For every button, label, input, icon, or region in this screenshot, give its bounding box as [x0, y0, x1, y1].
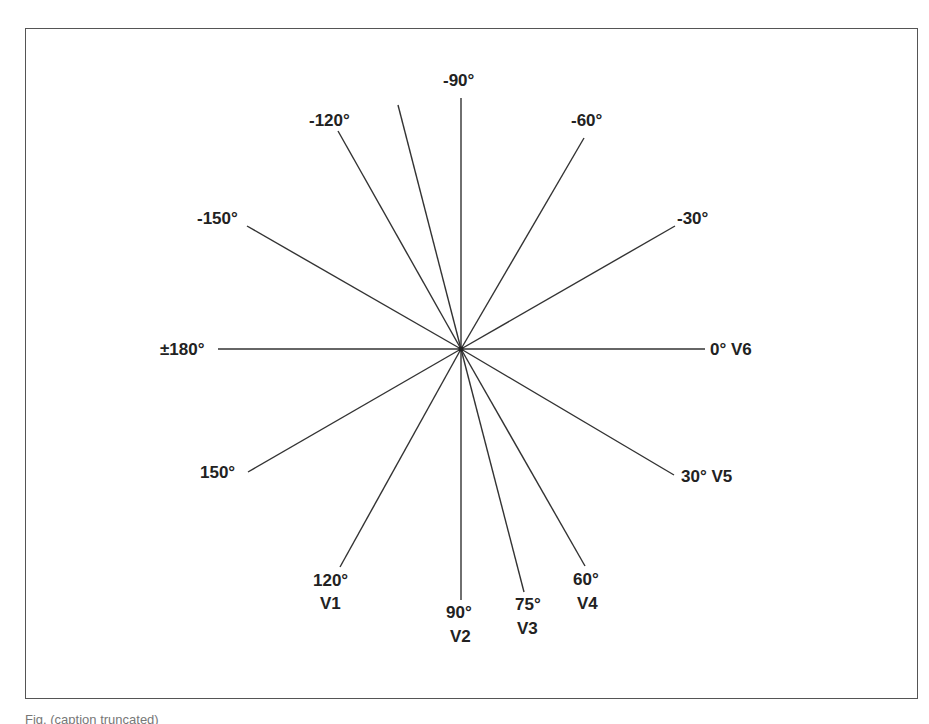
axis-30	[461, 349, 674, 475]
axis-60	[461, 349, 585, 566]
label-180: ±180°	[160, 340, 205, 359]
label-minus-90: -90°	[443, 71, 475, 90]
label-minus-30: -30°	[677, 209, 709, 228]
axis-minus-30	[461, 226, 675, 349]
label-120: 120°	[313, 571, 348, 590]
label-90: 90°	[446, 603, 472, 622]
label-minus-150: -150°	[197, 209, 238, 228]
label-v2: V2	[450, 627, 471, 646]
label-0-v6: 0° V6	[710, 340, 752, 359]
label-150: 150°	[200, 463, 235, 482]
label-minus-120: -120°	[309, 111, 350, 130]
axis-minus-60	[461, 138, 584, 349]
axis-150	[248, 349, 461, 472]
figure-caption: Fig. (caption truncated)	[25, 712, 385, 724]
axis-120	[340, 349, 461, 567]
label-v1: V1	[320, 594, 341, 613]
label-minus-60: -60°	[571, 111, 603, 130]
label-60: 60°	[573, 570, 599, 589]
axis-minus-120	[338, 131, 461, 349]
axis-75	[461, 349, 524, 592]
label-30-v5: 30° V5	[681, 467, 732, 486]
label-75: 75°	[515, 595, 541, 614]
label-v4: V4	[577, 594, 598, 613]
center-point	[459, 347, 464, 352]
axis-minus-150	[247, 226, 461, 349]
axis-minus-105	[398, 105, 461, 349]
label-v3: V3	[517, 619, 538, 638]
